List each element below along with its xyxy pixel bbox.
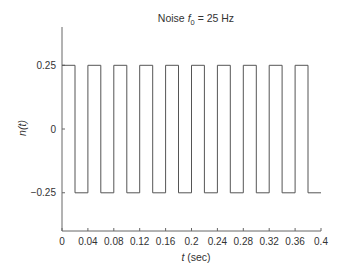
title-suffix: = 25 Hz (195, 12, 234, 24)
x-tick-label: 0.24 (208, 236, 228, 247)
svg-text:Noise f0 = 25 Hz: Noise f0 = 25 Hz (158, 12, 234, 27)
x-tick-label: 0.2 (185, 236, 199, 247)
x-tick-label: 0.36 (285, 236, 305, 247)
x-tick-label: 0.12 (130, 236, 150, 247)
y-tick-label: 0 (50, 124, 56, 135)
x-axis-label: t (sec) (181, 251, 210, 263)
square-wave-series (62, 65, 321, 193)
y-tick-label: −0.25 (31, 187, 57, 198)
title-prefix: Noise (158, 12, 188, 24)
chart: Noise f0 = 25 Hz 00.040.080.120.160.20.2… (0, 0, 346, 274)
x-tick-label: 0.28 (234, 236, 254, 247)
x-tick-label: 0 (59, 236, 65, 247)
x-tick-label: 0.4 (314, 236, 328, 247)
x-tick-label: 0.32 (259, 236, 279, 247)
x-tick-label: 0.08 (104, 236, 124, 247)
y-axis-label: n(t) (16, 120, 28, 136)
chart-title: Noise f0 = 25 Hz (158, 12, 234, 27)
plot-area (62, 65, 321, 193)
x-tick-label: 0.04 (78, 236, 98, 247)
x-tick-label: 0.16 (156, 236, 176, 247)
x-axis-unit: (sec) (184, 251, 210, 263)
y-tick-label: 0.25 (37, 60, 57, 71)
